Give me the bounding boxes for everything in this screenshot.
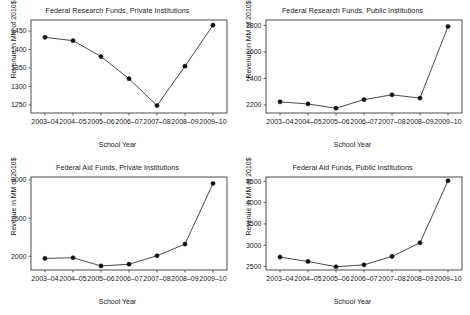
y-tick-label: 2400 (246, 75, 262, 82)
data-point-marker (306, 102, 310, 106)
y-tick-label: 1250 (11, 101, 27, 108)
x-tick-label: 2006–07 (350, 275, 377, 282)
y-tick-label: 2000 (11, 253, 27, 260)
data-point-marker (43, 256, 47, 260)
y-tick-label: 2800 (246, 22, 262, 29)
x-tick-label: 2005–06 (322, 118, 349, 125)
x-tick-label: 2007–08 (143, 118, 170, 125)
data-point-marker (99, 54, 103, 58)
x-tick-label: 2005–06 (87, 118, 114, 125)
series-line (45, 25, 213, 105)
y-tick-label: 1450 (11, 27, 27, 34)
x-tick-label: 2007–08 (143, 275, 170, 282)
x-tick-label: 2008–09 (406, 275, 433, 282)
x-tick-label: 2004–05 (294, 275, 321, 282)
x-tick-label: 2004–05 (59, 275, 86, 282)
plot-frame (31, 20, 227, 113)
data-point-marker (127, 262, 131, 266)
x-tick-label: 2006–07 (115, 275, 142, 282)
series-line (280, 181, 448, 267)
data-point-marker (155, 254, 159, 258)
figure-grid: Federal Research Funds, Private Institut… (0, 0, 470, 315)
x-tick-label: 2004–05 (59, 118, 86, 125)
y-tick-label: 2500 (246, 263, 262, 270)
plot-area: 22002400260028002003–042004–052005–06200… (235, 0, 470, 157)
y-tick-label: 2600 (246, 48, 262, 55)
data-point-marker (446, 24, 450, 28)
data-point-marker (278, 100, 282, 104)
panel-research-public: Federal Research Funds, Public Instituti… (235, 0, 470, 157)
x-tick-label: 2003–04 (31, 118, 58, 125)
x-tick-label: 2009–10 (434, 118, 461, 125)
x-axis-label: School Year (235, 141, 470, 148)
x-tick-label: 2005–06 (87, 275, 114, 282)
series-line (45, 183, 213, 265)
data-point-marker (71, 256, 75, 260)
panel-research-private: Federal Research Funds, Private Institut… (0, 0, 235, 157)
plot-area: 2000250030002003–042004–052005–062006–07… (0, 157, 235, 314)
data-point-marker (183, 64, 187, 68)
plot-frame (31, 177, 227, 270)
panel-aid-public: Federal Aid Funds, Public Institutions R… (235, 157, 470, 314)
data-point-marker (127, 77, 131, 81)
x-tick-label: 2005–06 (322, 275, 349, 282)
data-point-marker (362, 263, 366, 267)
data-point-marker (306, 259, 310, 263)
x-axis-label: School Year (0, 298, 235, 305)
data-point-marker (183, 242, 187, 246)
x-axis-label: School Year (0, 141, 235, 148)
data-point-marker (390, 254, 394, 258)
x-tick-label: 2006–07 (115, 118, 142, 125)
y-tick-label: 2200 (246, 101, 262, 108)
x-tick-label: 2009–10 (199, 118, 226, 125)
plot-area: 250030003500400045002003–042004–052005–0… (235, 157, 470, 314)
data-point-marker (418, 96, 422, 100)
data-point-marker (155, 104, 159, 108)
x-tick-label: 2009–10 (199, 275, 226, 282)
data-point-marker (334, 106, 338, 110)
panel-aid-private: Federal Aid Funds, Private Institutions … (0, 157, 235, 314)
x-tick-label: 2007–08 (378, 118, 405, 125)
y-tick-label: 3500 (246, 220, 262, 227)
y-tick-label: 4000 (246, 199, 262, 206)
plot-frame (266, 177, 462, 270)
data-point-marker (211, 23, 215, 27)
x-tick-label: 2008–09 (171, 118, 198, 125)
x-tick-label: 2009–10 (434, 275, 461, 282)
x-tick-label: 2008–09 (406, 118, 433, 125)
y-tick-label: 1300 (11, 83, 27, 90)
x-tick-label: 2007–08 (378, 275, 405, 282)
x-tick-label: 2003–04 (266, 275, 293, 282)
x-tick-label: 2008–09 (171, 275, 198, 282)
data-point-marker (278, 255, 282, 259)
x-axis-label: School Year (235, 298, 470, 305)
data-point-marker (418, 241, 422, 245)
data-point-marker (71, 39, 75, 43)
plot-area: 125013001350140014502003–042004–052005–0… (0, 0, 235, 157)
data-point-marker (43, 35, 47, 39)
series-line (280, 27, 448, 109)
data-point-marker (211, 181, 215, 185)
x-tick-label: 2003–04 (31, 275, 58, 282)
y-tick-label: 2500 (11, 215, 27, 222)
x-tick-label: 2006–07 (350, 118, 377, 125)
y-tick-label: 1350 (11, 64, 27, 71)
y-tick-label: 3000 (11, 176, 27, 183)
data-point-marker (334, 265, 338, 269)
x-tick-label: 2004–05 (294, 118, 321, 125)
data-point-marker (390, 93, 394, 97)
y-tick-label: 4500 (246, 178, 262, 185)
data-point-marker (362, 97, 366, 101)
data-point-marker (446, 179, 450, 183)
y-tick-label: 1400 (11, 46, 27, 53)
data-point-marker (99, 264, 103, 268)
x-tick-label: 2003–04 (266, 118, 293, 125)
y-tick-label: 3000 (246, 242, 262, 249)
